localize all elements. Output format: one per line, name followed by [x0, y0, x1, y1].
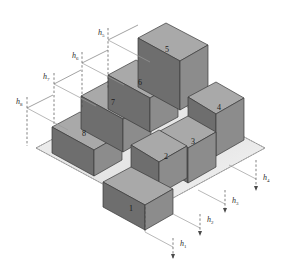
box-6-number: 6	[138, 78, 142, 87]
height-label-h6: h6	[72, 51, 79, 61]
figure-canvas: 1 2 3 4 5 6 7 8 h1 h2 h3 h4 h5 h6 h7 h8	[0, 0, 285, 274]
height-label-h4: h4	[263, 173, 270, 183]
isometric-block-diagram: 1 2 3 4 5 6 7 8 h1 h2 h3 h4 h5 h6 h7 h8	[0, 0, 285, 274]
box-7-number: 7	[111, 98, 115, 107]
height-label-h3: h3	[232, 196, 239, 206]
height-label-h2: h2	[207, 215, 214, 225]
box-1-number: 1	[129, 204, 133, 213]
box-3-number: 3	[191, 137, 195, 146]
box-4-number: 4	[217, 103, 221, 112]
box-8-number: 8	[82, 129, 86, 138]
height-label-h7: h7	[43, 72, 50, 82]
height-label-h5: h5	[98, 28, 105, 38]
height-label-h8: h8	[16, 97, 23, 107]
box-2-number: 2	[164, 152, 168, 161]
box-5-number: 5	[165, 45, 169, 54]
height-label-h1: h1	[180, 239, 187, 249]
